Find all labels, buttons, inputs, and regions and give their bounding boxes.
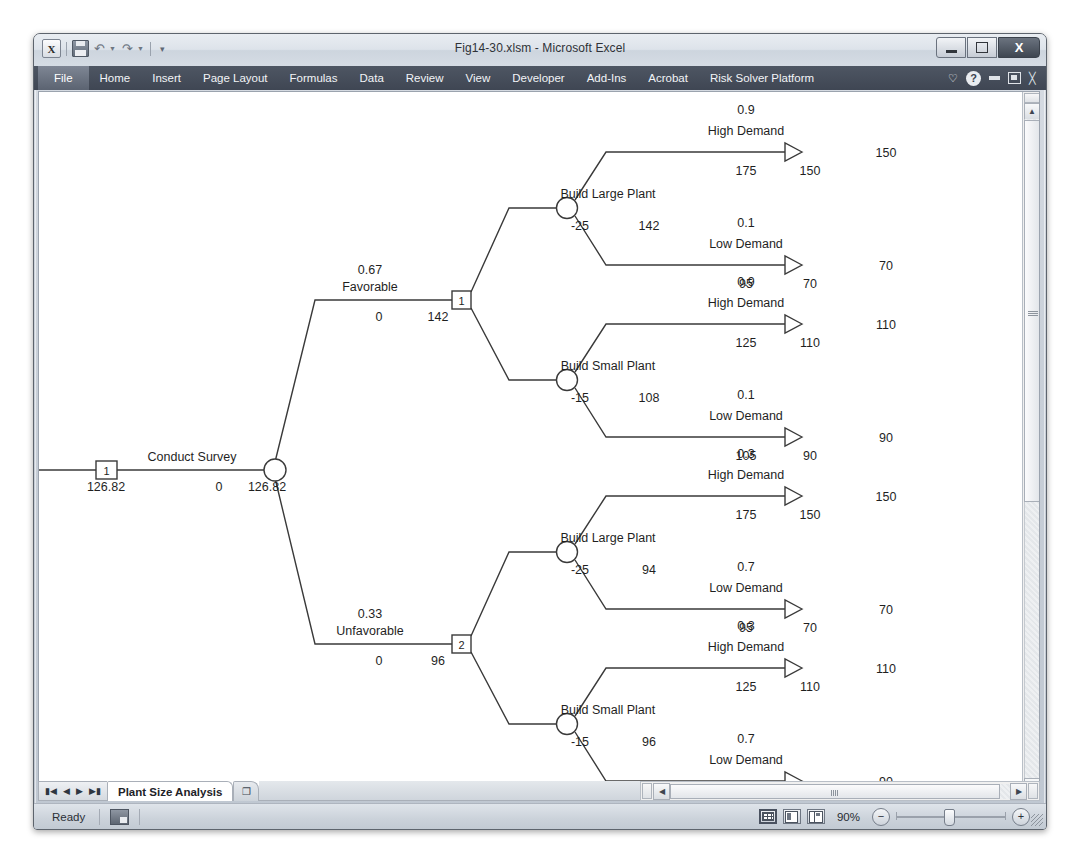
scroll-thumb-grip <box>1028 311 1038 317</box>
zoom-slider[interactable] <box>896 816 1006 818</box>
maximize-icon <box>976 42 988 53</box>
tree-edges <box>39 152 786 781</box>
fav-large-low-label: Low Demand <box>709 237 783 251</box>
first-sheet-icon[interactable]: ▮◀ <box>45 786 57 796</box>
zoom-slider-handle[interactable] <box>944 809 955 826</box>
unfav-small-high-value: 110 <box>800 680 820 694</box>
fav-large-low-terminal: 70 <box>879 259 893 273</box>
minimize-ribbon-icon[interactable] <box>989 76 1000 80</box>
prev-sheet-icon[interactable]: ◀ <box>63 786 70 796</box>
tab-acrobat[interactable]: Acrobat <box>637 66 699 90</box>
decision-tree-svg: 1 1 2 <box>39 92 1024 796</box>
close-button[interactable]: X <box>998 37 1040 58</box>
normal-view-button[interactable] <box>759 809 777 824</box>
insert-worksheet-icon[interactable]: ❐ <box>233 781 259 801</box>
scroll-right-icon[interactable]: ▶ <box>1010 783 1027 800</box>
sheet-nav-buttons[interactable]: ▮◀ ◀ ▶ ▶▮ <box>38 781 107 801</box>
zoom-tick-min <box>896 812 897 820</box>
horizontal-scrollbar[interactable]: ◀ ▶ <box>640 781 1040 801</box>
tab-page-layout[interactable]: Page Layout <box>192 66 279 90</box>
close-window-icon[interactable]: ╳ <box>1029 72 1036 85</box>
unfav-large-value: 94 <box>642 563 656 577</box>
status-text: Ready <box>34 811 99 823</box>
fav-small-high-value: 110 <box>800 336 820 350</box>
edge-unfav-small <box>471 652 559 724</box>
unfav-large-low-value: 70 <box>803 621 817 635</box>
tab-risk-solver-platform[interactable]: Risk Solver Platform <box>699 66 825 90</box>
unfavorable-cost: 0 <box>376 654 383 668</box>
tab-data[interactable]: Data <box>349 66 395 90</box>
maximize-button[interactable] <box>967 37 997 58</box>
vertical-scroll-thumb[interactable] <box>1024 120 1040 502</box>
tab-view[interactable]: View <box>455 66 502 90</box>
ribbon-right-icons: ♡ ? ╳ <box>948 66 1046 90</box>
excel-window: X ↶ ▼ ↷ ▼ ▾ Fig14-30.xlsm - Microsoft Ex… <box>33 33 1047 830</box>
normal-view-icon <box>762 812 774 821</box>
terminal-fav-small-high <box>785 315 802 333</box>
fav-small-label: Build Small Plant <box>561 359 656 373</box>
zoom-level-label[interactable]: 90% <box>837 811 860 823</box>
sheet-tab-row: ▮◀ ◀ ▶ ▶▮ Plant Size Analysis ❐ ◀ ▶ <box>38 781 1040 801</box>
help-icon[interactable]: ? <box>966 71 981 86</box>
unfavorable-label: Unfavorable <box>336 624 403 638</box>
tab-home[interactable]: Home <box>89 66 142 90</box>
horizontal-scroll-thumb[interactable] <box>670 784 1000 799</box>
record-macro-icon[interactable] <box>110 809 129 825</box>
next-sheet-icon[interactable]: ▶ <box>76 786 83 796</box>
unfavorable-value: 96 <box>431 654 445 668</box>
terminal-unfav-small-high <box>785 659 802 677</box>
window-resize-grip[interactable] <box>1031 814 1043 826</box>
vertical-scrollbar[interactable]: ▲ ▼ <box>1022 92 1039 796</box>
terminal-fav-large-low <box>785 256 802 274</box>
terminal-fav-small-low <box>785 428 802 446</box>
status-bar: Ready 90% − + <box>34 803 1046 829</box>
page-layout-view-button[interactable] <box>783 809 801 824</box>
scroll-up-icon[interactable]: ▲ <box>1024 103 1040 120</box>
tab-add-ins[interactable]: Add-Ins <box>576 66 638 90</box>
horizontal-split-handle-right[interactable] <box>1028 783 1038 799</box>
favorable-value: 142 <box>428 310 449 324</box>
unfav-small-low-probability: 0.7 <box>737 732 754 746</box>
last-sheet-icon[interactable]: ▶▮ <box>89 786 101 796</box>
fav-small-high-payoff: 125 <box>736 336 757 350</box>
tab-developer[interactable]: Developer <box>501 66 575 90</box>
tab-formulas[interactable]: Formulas <box>279 66 349 90</box>
fav-large-high-label: High Demand <box>708 124 784 138</box>
minimize-button[interactable] <box>936 37 966 58</box>
zoom-out-button[interactable]: − <box>872 808 890 826</box>
root-decision-node-label: 1 <box>103 465 109 477</box>
horizontal-scroll-track[interactable] <box>670 784 1010 799</box>
edge-unfav-large <box>471 552 559 636</box>
zoom-in-button[interactable]: + <box>1012 808 1030 826</box>
page-break-view-button[interactable] <box>807 809 825 824</box>
conduct-survey-cost: 0 <box>216 480 223 494</box>
unfav-large-label: Build Large Plant <box>560 531 656 545</box>
window-title: Fig14-30.xlsm - Microsoft Excel <box>34 41 1046 55</box>
restore-window-icon[interactable] <box>1008 72 1021 84</box>
horizontal-split-handle[interactable] <box>642 783 652 799</box>
edge-favorable <box>275 300 452 462</box>
tab-insert[interactable]: Insert <box>141 66 192 90</box>
unfavorable-probability: 0.33 <box>358 607 382 621</box>
tab-review[interactable]: Review <box>395 66 455 90</box>
fav-small-low-label: Low Demand <box>709 409 783 423</box>
fav-large-high-payoff: 175 <box>736 164 757 178</box>
split-pane-handle[interactable] <box>1024 93 1040 103</box>
heart-icon[interactable]: ♡ <box>948 73 958 84</box>
tab-file[interactable]: File <box>38 66 89 90</box>
fav-large-label: Build Large Plant <box>560 187 656 201</box>
unfav-small-label: Build Small Plant <box>561 703 656 717</box>
scroll-left-icon[interactable]: ◀ <box>653 783 670 800</box>
unfav-small-high-payoff: 125 <box>736 680 757 694</box>
favorable-probability: 0.67 <box>358 263 382 277</box>
unfav-large-low-probability: 0.7 <box>737 560 754 574</box>
page-layout-view-icon <box>785 811 798 823</box>
sheet-tab-filler <box>259 781 640 801</box>
fav-large-high-probability: 0.9 <box>737 103 754 117</box>
sheet-tab-plant-size-analysis[interactable]: Plant Size Analysis <box>107 781 233 801</box>
unfav-small-low-label: Low Demand <box>709 753 783 767</box>
fav-small-low-value: 90 <box>803 449 817 463</box>
tree-nodes: 1 1 2 <box>96 198 578 735</box>
unfav-small-high-label: High Demand <box>708 640 784 654</box>
decision-tree-canvas: 1 1 2 <box>39 92 1024 796</box>
